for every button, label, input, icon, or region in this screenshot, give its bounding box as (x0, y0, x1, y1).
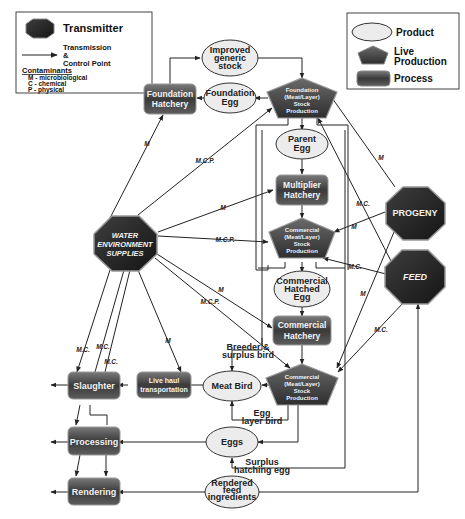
node-label: Eggs (221, 437, 243, 447)
node-label: Production (286, 395, 318, 401)
breeder-surplus-label-2: surplus bird (222, 350, 274, 360)
edge-label-water-foundation-stock: M.C.P. (195, 157, 214, 164)
edge-label-water-foundation-hatchery: M (144, 140, 150, 147)
edge-label-progeny-commercial-2: M (360, 290, 366, 297)
node-label: Stock (294, 101, 311, 107)
legend-product-label: Product (396, 27, 434, 38)
node-label: Egg (294, 292, 311, 302)
node-label: Hatchery (152, 99, 189, 109)
node-label: Rendering (72, 487, 117, 497)
node-eggs[interactable]: Eggs (206, 427, 258, 457)
node-label: Commercial (285, 227, 320, 233)
node-label: FEED (403, 272, 428, 282)
node-foundation-stock-production[interactable]: Foundation (Meat/Layer) Stock Production (267, 78, 337, 118)
node-foundation-hatchery[interactable]: Foundation Hatchery (144, 84, 196, 114)
node-slaughter[interactable]: Slaughter (68, 372, 120, 399)
node-label: (Meat/Layer) (284, 381, 319, 387)
node-label: Production (286, 108, 318, 114)
node-label: Multiplier (283, 180, 321, 190)
edge-label-water-slaughter-3: M.C. (104, 358, 118, 365)
node-commercial-stock-production-1[interactable]: Commercial (Meat/Layer) Stock Production (269, 218, 335, 258)
legend-production-label: Production (394, 56, 447, 67)
node-meat-bird[interactable]: Meat Bird (203, 371, 261, 401)
node-label: transportation (140, 386, 187, 394)
contaminant-p: P - physical (28, 86, 64, 94)
node-commercial-hatchery[interactable]: Commercial Hatchery (273, 316, 331, 345)
node-label: Processing (70, 437, 119, 447)
edge-label-water-live-haul: M (165, 337, 171, 344)
node-label: PROGENY (392, 208, 437, 218)
transmitter-legend-icon (26, 19, 54, 38)
surplus-hatching-egg-label-2: hatching egg (234, 465, 290, 475)
node-label: stock (218, 61, 243, 71)
node-label: Live haul (149, 377, 179, 384)
edge-label-feed-foundation: M.C. (356, 200, 370, 207)
node-label: Stock (294, 241, 311, 247)
node-label: Meat Bird (211, 381, 252, 391)
node-label: Egg (222, 97, 239, 107)
product-legend-icon (352, 23, 392, 41)
node-label: Production (286, 248, 318, 254)
node-label: Slaughter (73, 381, 115, 391)
node-label: (Meat/Layer) (284, 94, 319, 100)
legend-transmission-label: Transmission (63, 43, 112, 52)
node-parent-egg[interactable]: Parent Egg (276, 129, 328, 159)
edge-label-water-multiplier: M (220, 204, 226, 211)
process-legend-icon (357, 71, 390, 86)
node-label: WATER (112, 231, 139, 240)
node-label: Hatchery (284, 190, 321, 200)
node-label: Foundation (147, 89, 193, 99)
node-multiplier-hatchery[interactable]: Multiplier Hatchery (276, 175, 328, 205)
node-processing[interactable]: Processing (68, 427, 120, 455)
node-water-environment-supplies[interactable]: WATER ENVIRONMENT SUPPLIES (94, 216, 157, 271)
egg-layer-bird-label-2: layer bird (242, 416, 283, 426)
node-label: ingredients (208, 492, 257, 502)
edge-label-progeny-commercial-1: M (351, 223, 357, 230)
node-rendering[interactable]: Rendering (68, 478, 120, 505)
node-label: Stock (294, 388, 311, 394)
node-label: Commercial (285, 374, 320, 380)
node-feed[interactable]: FEED (385, 250, 445, 304)
edge-label-water-commercial-hatchery: M (218, 286, 224, 293)
edge-label-water-commercial-stock-2: M.C.P. (200, 298, 219, 305)
node-rendered-feed-ingredients[interactable]: Rendered feed ingredients (205, 476, 259, 508)
legend-right: Product Live Production Process (347, 13, 459, 89)
node-label: Hatchery (284, 331, 321, 341)
node-commercial-stock-production-2[interactable]: Commercial (Meat/Layer) Stock Production (266, 364, 338, 405)
edge-label-feed-commercial-2: M.C. (374, 326, 388, 333)
edge-label-water-slaughter-2: M.C. (96, 343, 110, 350)
edge-label-feed-commercial-1: M.C. (348, 263, 362, 270)
edge-label-progeny-foundation: M (378, 154, 384, 161)
legend-process-label: Process (394, 73, 433, 84)
node-progeny[interactable]: PROGENY (386, 187, 445, 240)
node-label: Egg (294, 143, 311, 153)
node-foundation-egg[interactable]: Foundation Egg (204, 83, 256, 113)
node-label: ENVIRONMENT (97, 240, 154, 249)
poultry-contamination-flow-diagram: Transmitter Transmission & Control Point… (0, 0, 465, 519)
edge-label-water-slaughter-1: M.C. (76, 346, 90, 353)
node-commercial-hatched-egg[interactable]: Commercial Hatched Egg (274, 271, 330, 307)
node-label: SUPPLIES (106, 249, 143, 258)
node-label: Commercial (278, 320, 327, 330)
node-label: Foundation (286, 87, 319, 93)
node-improved-generic-stock[interactable]: Improved generic stock (202, 40, 258, 76)
node-label: (Meat/Layer) (284, 234, 319, 240)
node-live-haul-transportation[interactable]: Live haul transportation (137, 372, 191, 398)
legend-left: Transmitter Transmission & Control Point… (16, 12, 152, 94)
legend-transmitter-label: Transmitter (63, 22, 124, 34)
edge-label-water-commercial-stock-1: M.C.P. (215, 236, 234, 243)
